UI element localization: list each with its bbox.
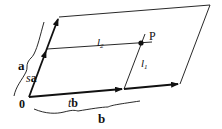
vector-a-arrow: [46, 19, 58, 51]
label-p: P: [149, 29, 156, 43]
label-sa: sa: [26, 71, 37, 85]
label-origin: 0: [19, 97, 25, 111]
label-tb: tb: [68, 96, 78, 110]
label-l1-sub: 1: [144, 63, 148, 71]
top-edge: [59, 5, 210, 17]
label-sa-a: a: [31, 71, 37, 85]
parallelogram-diagram: a sa 0 tb b l2 l1 P: [0, 0, 222, 129]
vector-b-arrow: [124, 84, 178, 89]
parallelogram-outline: [59, 5, 210, 84]
point-p-dot: [138, 40, 143, 45]
label-tb-b: b: [71, 96, 78, 110]
label-a: a: [18, 58, 25, 73]
brace-b: [34, 101, 140, 113]
right-edge: [180, 5, 210, 84]
label-l1: l1: [141, 57, 148, 71]
vector-b: [29, 84, 178, 97]
vector-a: [29, 19, 58, 97]
label-b: b: [98, 111, 105, 126]
label-l2: l2: [97, 36, 104, 50]
label-l2-sub: 2: [100, 42, 104, 50]
